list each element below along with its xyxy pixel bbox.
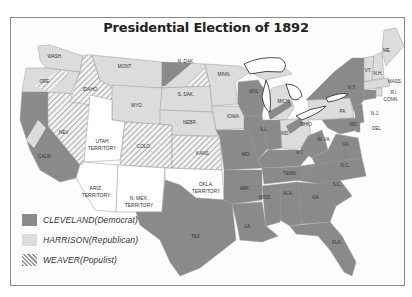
label-ore: ORE. [39,79,50,84]
label-wyo: WYO. [131,103,143,108]
label-mass: MASS. [388,79,402,84]
legend-item-harrison: HARRISON(Republican) [22,234,138,246]
label-wash: WASH. [48,54,63,59]
label-mich: MICH. [277,99,290,104]
lake-superior [244,58,286,74]
label-pa: PA. [339,109,346,114]
label-minn: MINN. [217,72,230,77]
label-ark: ARK. [240,186,251,191]
label-wis: WIS. [249,89,259,94]
state-s-dak [160,86,212,112]
label-conn: CONN. [384,97,399,102]
legend-swatch-cleveland [22,214,37,226]
label-okla-territory-word: TERRITORY [192,188,221,194]
legend-label-harrison: HARRISON(Republican) [43,235,138,245]
label-s-dak: S. DAK. [178,92,194,97]
label-wva: W. VA. [317,137,331,142]
label-ariz-territory-name: ARIZ. [90,185,103,191]
label-nmex-territory-name: N. MEX. [130,195,149,201]
label-nj: N.J. [371,111,379,116]
legend-label-weaver: WEAVER(Populist) [43,255,117,265]
label-colo: COLO. [137,144,151,149]
state-wis [238,80,266,116]
label-ill: ILL. [260,127,268,132]
label-nh: N.H. [373,71,382,76]
state-conn [364,90,376,100]
label-va: VA. [342,142,349,147]
label-ri: R.I. [390,90,397,95]
label-mo: MO. [242,152,251,157]
label-mont: MONT. [118,64,132,69]
label-ga: GA. [312,195,320,200]
label-utah-territory-name: UTAH [95,138,109,144]
label-del: DEL. [372,126,382,131]
label-nev: NEV. [59,130,69,135]
label-sc: S.C. [333,182,342,187]
label-nmex-territory-word: TERRITORY [125,202,154,208]
state-ala [280,182,302,226]
legend-label-cleveland: CLEVELAND(Democrat) [43,215,138,225]
label-me: ME. [383,48,391,53]
label-fla: FLA. [332,240,342,245]
label-tenn: TENN. [283,171,297,176]
label-utah-territory-word: TERRITORY [88,145,117,151]
state-fla [290,222,356,276]
state-ri [376,88,382,96]
label-okla-territory-name: OKLA. [199,181,214,187]
legend-swatch-weaver [22,254,37,266]
label-vt: VT. [365,68,372,73]
label-la: LA. [245,224,252,229]
label-idaho: IDAHO [83,87,98,92]
label-ny: N.Y. [348,85,356,90]
legend-item-cleveland: CLEVELAND(Democrat) [22,214,138,226]
label-iowa: IOWA [227,114,240,119]
label-ky: KY. [297,150,304,155]
legend: CLEVELAND(Democrat) HARRISON(Republican)… [22,214,138,274]
label-calif: CALIF. [38,154,52,159]
label-ala: ALA. [283,191,293,196]
label-kans: KANS. [196,151,210,156]
legend-swatch-harrison [22,234,37,246]
label-nebr: NEBR. [183,120,197,125]
legend-item-weaver: WEAVER(Populist) [22,254,138,266]
label-ohio: OHIO [300,122,312,127]
label-tex: TEX. [191,234,201,239]
label-n-dak: N. DAK. [178,59,195,64]
label-miss: MISS. [259,195,272,200]
label-nc: N.C. [340,163,349,168]
label-ind: IND. [280,131,289,136]
map-title: Presidential Election of 1892 [0,20,412,35]
label-md: MD. [350,122,358,127]
label-ariz-territory-word: TERRITORY [82,192,111,198]
